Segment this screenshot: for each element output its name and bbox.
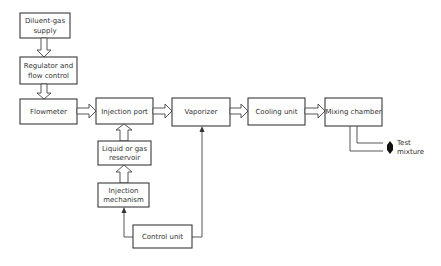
hollow-arrow-right-icon bbox=[77, 104, 96, 118]
label-test-mixture: Test mixture bbox=[396, 139, 424, 156]
box-diluent-gas-supply: Diluent-gas supply bbox=[20, 13, 70, 38]
box-label: reservoir bbox=[109, 154, 140, 162]
output-line-inner bbox=[357, 126, 383, 143]
box-liquid-gas-reservoir: Liquid or gas reservoir bbox=[98, 141, 151, 165]
box-mixing-chamber: Mixing chamber bbox=[325, 98, 382, 126]
box-label: Regulator and bbox=[24, 62, 73, 70]
connector-control-to-vaporizer bbox=[192, 131, 202, 237]
box-label: Injection bbox=[108, 187, 138, 195]
hollow-arrow-right-icon bbox=[230, 104, 248, 118]
box-vaporizer: Vaporizer bbox=[172, 98, 230, 126]
box-injection-port: Injection port bbox=[96, 98, 153, 124]
box-label: Cooling unit bbox=[255, 108, 297, 116]
box-injection-mechanism: Injection mechanism bbox=[98, 183, 149, 207]
arrowhead-up-icon bbox=[122, 207, 127, 213]
box-regulator-flow-control: Regulator and flow control bbox=[20, 57, 77, 84]
box-label: Liquid or gas bbox=[102, 145, 147, 153]
hollow-arrow-right-icon bbox=[305, 104, 325, 118]
output-arrow-icon bbox=[387, 141, 393, 154]
box-label: mechanism bbox=[103, 196, 144, 204]
box-label: supply bbox=[33, 27, 56, 35]
connector-control-to-mechanism bbox=[124, 212, 133, 237]
box-control-unit: Control unit bbox=[133, 225, 192, 248]
box-label: flow control bbox=[28, 72, 69, 80]
box-label: Mixing chamber bbox=[325, 108, 381, 116]
hollow-arrow-down-icon bbox=[37, 84, 51, 99]
arrowhead-up-icon bbox=[200, 126, 205, 132]
box-label: Injection port bbox=[101, 108, 148, 116]
output-label: mixture bbox=[397, 148, 424, 156]
box-label: Vaporizer bbox=[185, 108, 218, 116]
hollow-arrow-right-icon bbox=[153, 104, 172, 118]
hollow-arrow-up-icon bbox=[116, 165, 132, 183]
box-label: Control unit bbox=[142, 233, 183, 241]
hollow-arrow-up-icon bbox=[116, 124, 132, 141]
output-label: Test bbox=[396, 139, 411, 147]
flow-diagram: Diluent-gas supply Regulator and flow co… bbox=[0, 0, 441, 266]
box-label: Diluent-gas bbox=[25, 17, 65, 25]
box-label: Flowmeter bbox=[30, 108, 67, 116]
output-line-outer bbox=[350, 126, 383, 151]
box-flowmeter: Flowmeter bbox=[20, 99, 77, 124]
box-cooling-unit: Cooling unit bbox=[248, 98, 305, 125]
hollow-arrow-down-icon bbox=[37, 38, 51, 57]
